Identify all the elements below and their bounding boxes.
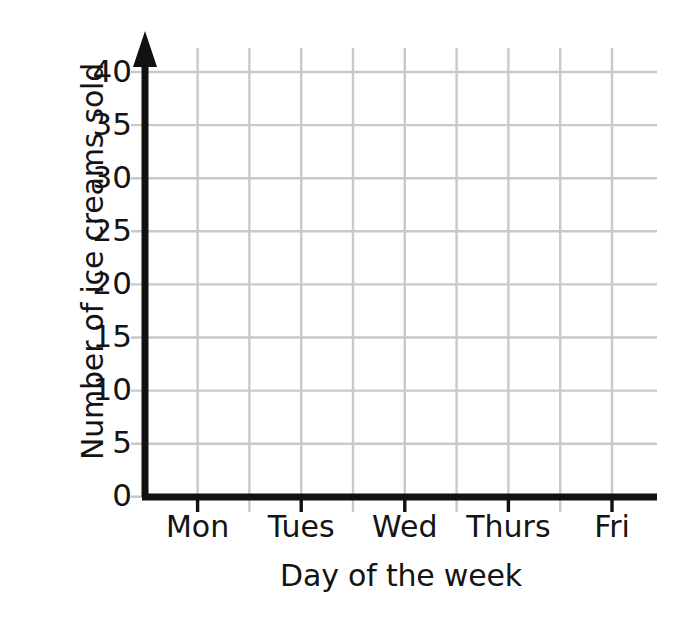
x-tick-label-fri: Fri bbox=[594, 512, 630, 542]
x-tick-label-tues: Tues bbox=[268, 512, 335, 542]
vertical-gridlines bbox=[198, 48, 612, 512]
x-axis-title: Day of the week bbox=[145, 558, 657, 593]
y-axis-line bbox=[133, 31, 157, 497]
x-tick-label-thurs: Thurs bbox=[466, 512, 550, 542]
x-tick-label-mon: Mon bbox=[166, 512, 229, 542]
x-tick-label-wed: Wed bbox=[372, 512, 437, 542]
y-axis-arrowhead bbox=[133, 31, 157, 67]
y-axis-title: Number of ice creams sold bbox=[75, 2, 110, 522]
horizontal-gridlines bbox=[131, 72, 657, 497]
ice-cream-bar-chart: 40 35 30 25 20 15 10 5 0 Mon Tues Wed Th… bbox=[0, 0, 692, 628]
